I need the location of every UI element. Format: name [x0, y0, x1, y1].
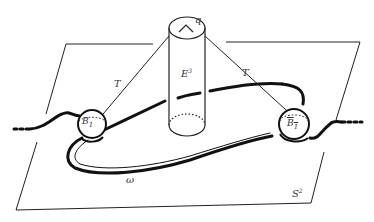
- label-e3: E3: [181, 68, 192, 79]
- label-b1-left: B1: [82, 117, 93, 129]
- label-q: q: [195, 15, 201, 25]
- label-t-left: T: [114, 79, 121, 89]
- label-s2: S2: [292, 188, 303, 199]
- tubes-t: [98, 36, 297, 120]
- label-b1-right: B1: [287, 119, 298, 131]
- label-t-right: T: [242, 68, 249, 78]
- knot-strand: [14, 83, 362, 173]
- label-omega: ω: [126, 175, 134, 185]
- knot-diagram: [0, 0, 374, 222]
- diagram-canvas: q E3 T T B1 B1 ω S2: [0, 0, 374, 222]
